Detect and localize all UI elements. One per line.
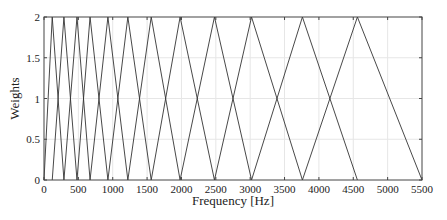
x-tick-label: 3500 bbox=[274, 183, 297, 195]
x-axis-label: Frequency [Hz] bbox=[192, 193, 274, 208]
y-axis-label: Weights bbox=[7, 77, 22, 119]
y-tick-label: 1.5 bbox=[26, 52, 40, 64]
y-tick-label: 0 bbox=[35, 174, 41, 186]
y-tick-label: 2 bbox=[35, 11, 41, 23]
y-tick-label: 1 bbox=[35, 93, 41, 105]
x-tick-label: 2000 bbox=[170, 183, 193, 195]
x-tick-label: 1000 bbox=[102, 183, 125, 195]
x-tick-label: 5500 bbox=[411, 183, 434, 195]
filterbank-chart: 0500100015002000250030003500400045005000… bbox=[0, 0, 447, 220]
y-tick-label: 0.5 bbox=[26, 133, 40, 145]
x-tick-label: 500 bbox=[70, 183, 87, 195]
x-tick-label: 4000 bbox=[308, 183, 331, 195]
x-tick-label: 5000 bbox=[377, 183, 400, 195]
x-tick-label: 4500 bbox=[342, 183, 365, 195]
x-tick-label: 0 bbox=[41, 183, 47, 195]
x-tick-label: 1500 bbox=[136, 183, 159, 195]
